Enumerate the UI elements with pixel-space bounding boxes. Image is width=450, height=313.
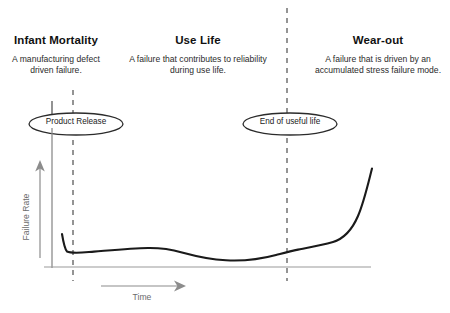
bathtub-curve-diagram: Infant Mortality A manufacturing defect … [0,0,450,313]
y-axis-label: Failure Rate [21,184,31,250]
phase-wear-out: Wear-out A failure that is driven by an … [312,33,444,77]
failure-rate-curve [62,169,372,261]
callout-end-of-useful-life-label: End of useful life [244,117,336,126]
x-axis-label: Time [112,292,172,302]
phase-infant-mortality-title: Infant Mortality [2,33,110,47]
callout-product-release-label: Product Release [30,117,122,126]
phase-use-life-description: A failure that contributes to reliabilit… [124,54,272,77]
phase-wear-out-title: Wear-out [312,33,444,47]
phase-wear-out-description: A failure that is driven by an accumulat… [312,54,444,77]
phase-use-life-title: Use Life [124,33,272,47]
phase-infant-mortality-description: A manufacturing defect driven failure. [2,54,110,77]
phase-use-life: Use Life A failure that contributes to r… [124,33,272,77]
phase-infant-mortality: Infant Mortality A manufacturing defect … [2,33,110,77]
